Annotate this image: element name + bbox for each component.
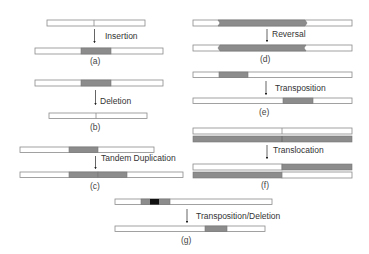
duplicated-segment — [69, 147, 98, 153]
panel-caption: (c) — [90, 181, 100, 191]
panel-caption: (f) — [261, 180, 269, 190]
inserted-segment — [81, 48, 111, 54]
operation-label: Reversal — [272, 29, 306, 39]
segment-copy-2 — [98, 172, 127, 178]
moved-segment-destination — [283, 98, 313, 104]
chromosome-2-before — [193, 136, 352, 142]
structural-variation-diagram: Insertion (a) Deletion (b) Tandem Duplic… — [0, 0, 369, 254]
panel-deletion: Deletion (b) — [35, 80, 163, 132]
chromosome-2-right-swapped — [282, 172, 352, 178]
operation-label: Insertion — [105, 31, 138, 41]
moved-segment-origin — [219, 72, 248, 78]
panel-tandem-duplication: Tandem Duplication (c) — [20, 147, 183, 191]
operation-label: Translocation — [273, 145, 324, 155]
operation-label: Transposition — [275, 83, 326, 93]
panel-caption: (d) — [260, 54, 271, 64]
chromosome-after — [49, 113, 147, 119]
chromosome-2-left — [193, 172, 282, 178]
chromosome-after — [115, 226, 265, 232]
panel-caption: (e) — [259, 107, 270, 117]
deleted-segment — [81, 80, 111, 86]
segment-copy-1 — [69, 172, 98, 178]
chromosome-1-before — [193, 128, 352, 134]
chromosome-before — [193, 72, 352, 78]
panel-caption: (g) — [181, 235, 192, 245]
panel-translocation: Translocation (f) — [193, 128, 352, 190]
panel-caption: (b) — [90, 122, 101, 132]
panel-insertion: Insertion (a) — [35, 20, 163, 66]
panel-transposition: Transposition (e) — [193, 72, 352, 117]
segment-forward — [218, 20, 307, 26]
deleted-subsegment — [150, 199, 159, 205]
chromosome-before — [47, 20, 145, 26]
moved-segment-destination — [205, 226, 227, 232]
chromosome-before — [115, 199, 272, 205]
segment-reversed — [218, 45, 306, 51]
chromosome-after — [193, 98, 352, 104]
panel-caption: (a) — [90, 56, 101, 66]
chromosome-1-right-swapped — [282, 164, 352, 170]
panel-transposition-deletion: Transposition/Deletion (g) — [115, 199, 281, 245]
operation-label: Deletion — [100, 96, 131, 106]
panel-reversal: Reversal (d) — [193, 20, 352, 64]
operation-label: Transposition/Deletion — [196, 211, 281, 221]
chromosome-1-left — [193, 164, 282, 170]
operation-label: Tandem Duplication — [101, 153, 176, 163]
